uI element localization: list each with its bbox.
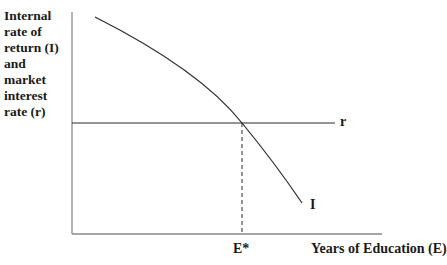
irr-curve-I bbox=[95, 17, 302, 203]
I-label: I bbox=[310, 197, 315, 213]
x-axis-label: Years of Education (E) bbox=[311, 241, 447, 257]
estar-label: E* bbox=[233, 241, 249, 257]
education-investment-diagram bbox=[0, 0, 447, 265]
r-label: r bbox=[340, 114, 346, 130]
